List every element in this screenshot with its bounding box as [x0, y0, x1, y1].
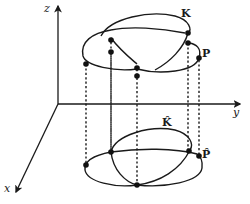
x-axis-label: x — [4, 182, 11, 195]
projection-point — [83, 162, 89, 168]
knot-strand — [155, 33, 188, 70]
knot-strand — [111, 38, 137, 64]
x-axis — [16, 104, 58, 192]
projection-strand — [111, 129, 191, 152]
projection-point — [108, 149, 114, 155]
knot-point — [134, 65, 140, 71]
knot-strand — [137, 43, 200, 72]
knot-projection-diagram: z y x K P K̂ P̂ — [0, 0, 250, 204]
knot-point — [185, 40, 191, 46]
point-p-hat — [196, 153, 202, 159]
knot-label-k: K — [181, 7, 191, 20]
knot-k — [83, 14, 200, 72]
coordinate-axes — [16, 6, 240, 192]
knot-point — [83, 61, 89, 67]
point-label-p: P — [202, 47, 210, 60]
projection-lines — [86, 42, 199, 185]
projection-point — [134, 182, 140, 188]
knot-strand — [111, 28, 185, 33]
knot-point — [185, 30, 191, 36]
projection-label-k-hat: K̂ — [162, 116, 172, 129]
projection-strand — [85, 152, 137, 186]
knot-k-points — [83, 30, 202, 79]
y-axis-label: y — [232, 106, 240, 119]
point-p — [196, 55, 202, 61]
knot-strand — [101, 14, 190, 36]
knot-point — [134, 73, 140, 79]
knot-projection-k-hat — [85, 129, 202, 186]
knot-point — [108, 37, 114, 43]
projection-label-p-hat: P̂ — [202, 148, 210, 161]
projection-strand — [111, 149, 197, 154]
projection-strand — [111, 152, 137, 185]
projection-strand — [137, 150, 190, 185]
projection-strand — [137, 154, 202, 186]
knot-point — [108, 49, 114, 55]
z-axis-label: z — [43, 2, 50, 15]
projection-point — [186, 148, 192, 154]
